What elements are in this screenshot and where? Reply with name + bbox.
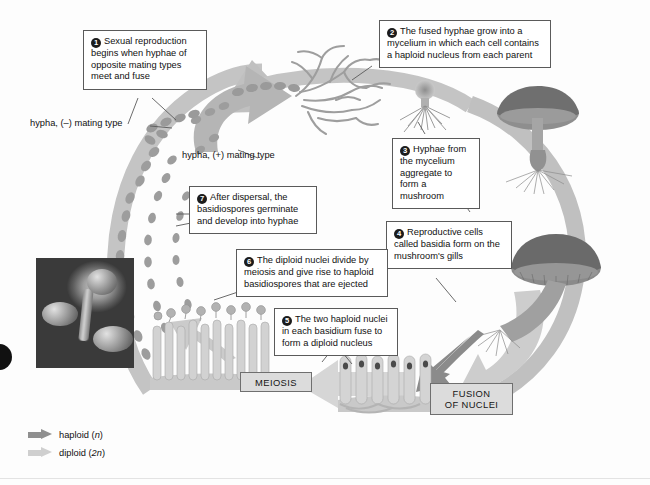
diploid-arrow-icon xyxy=(28,447,52,458)
callout-3-number: 3 xyxy=(400,146,410,156)
sem-micrograph xyxy=(36,258,134,368)
micrograph-spore-2 xyxy=(42,302,78,326)
callout-7: 7After dispersal, the basidiospores germ… xyxy=(189,186,317,234)
callout-1-number: 1 xyxy=(91,38,101,48)
callout-1-text: Sexual reproduction begins when hyphae o… xyxy=(91,36,187,81)
callout-5-number: 5 xyxy=(282,316,292,326)
legend-haploid-suffix: ) xyxy=(100,430,103,440)
callout-7-text: After dispersal, the basidiospores germi… xyxy=(197,192,298,226)
legend-label-diploid: diploid (2n) xyxy=(59,448,105,458)
callout-4-number: 4 xyxy=(394,229,404,239)
callout-2: 2The fused hyphae grow into a mycelium i… xyxy=(379,20,551,68)
micrograph-basidium-stalk xyxy=(78,288,93,341)
label-hypha-plus: hypha, (+) mating type xyxy=(182,150,275,161)
callout-6-text: The diploid nuclei divide by meiosis and… xyxy=(244,255,374,289)
legend-row-haploid: haploid (n) xyxy=(28,427,105,442)
micrograph-spore-3 xyxy=(93,326,133,352)
callout-3: 3Hyphae from the mycelium aggregate to f… xyxy=(392,138,480,209)
callout-3-text: Hyphae from the mycelium aggregate to fo… xyxy=(400,144,466,201)
legend: haploid (n) diploid (2n) xyxy=(28,427,105,463)
legend-diploid-italic: 2n xyxy=(92,448,102,458)
micrograph-spore-1 xyxy=(87,269,117,295)
label-hypha-minus: hypha, (–) mating type xyxy=(30,118,123,129)
legend-diploid-suffix: ) xyxy=(102,448,105,458)
stage-box-fusion: FUSION OF NUCLEI xyxy=(430,383,513,415)
stage-fusion-label-line2: OF NUCLEI xyxy=(445,399,499,410)
legend-haploid-text: haploid ( xyxy=(59,430,95,440)
stage-box-meiosis: MEIOSIS xyxy=(240,372,312,392)
callout-4: 4Reproductive cells called basidia form … xyxy=(386,221,512,269)
callout-5-text: The two haploid nuclei in each basidium … xyxy=(282,314,388,348)
legend-row-diploid: diploid (2n) xyxy=(28,445,105,460)
callout-2-number: 2 xyxy=(387,28,397,38)
callout-5: 5The two haploid nuclei in each basidium… xyxy=(274,308,398,356)
callout-2-text: The fused hyphae grow into a mycelium in… xyxy=(387,26,539,60)
callout-7-number: 7 xyxy=(197,194,207,204)
callout-6-number: 6 xyxy=(244,257,254,267)
haploid-arrow-icon xyxy=(28,429,52,440)
callout-6: 6The diploid nuclei divide by meiosis an… xyxy=(236,249,388,297)
mycelium-network xyxy=(292,46,392,134)
callout-4-text: Reproductive cells called basidia form o… xyxy=(394,227,500,261)
callout-1: 1Sexual reproduction begins when hyphae … xyxy=(83,30,207,90)
stage-meiosis-label: MEIOSIS xyxy=(255,377,297,388)
stage-fusion-label-line1: FUSION xyxy=(453,388,491,399)
legend-label-haploid: haploid (n) xyxy=(59,430,103,440)
diagram-canvas: 1Sexual reproduction begins when hyphae … xyxy=(0,0,650,485)
legend-diploid-text: diploid ( xyxy=(59,448,92,458)
